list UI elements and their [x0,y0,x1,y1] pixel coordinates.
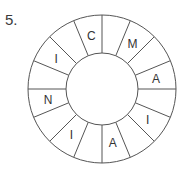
letter-wheel: MAIAINIC [0,0,185,178]
segment-letter: C [87,29,96,43]
inner-ring [66,53,138,125]
segment-divider [116,122,131,157]
segment-letter: M [128,37,138,51]
segment-divider [34,61,69,76]
segment-letter: I [70,128,73,142]
segment-letter: A [152,72,160,86]
segment-divider [127,114,154,141]
segment-letter: A [109,136,117,150]
segment-letter: I [146,113,149,127]
segment-divider [74,122,89,157]
segment-letter: I [55,52,58,66]
segment-letter: N [44,93,53,107]
segment-divider [135,103,170,118]
